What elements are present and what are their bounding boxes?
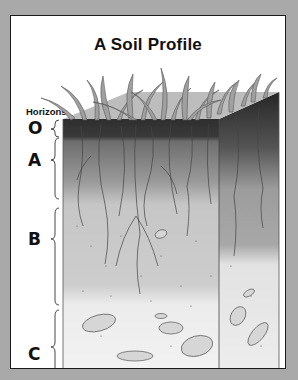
soil-front-face bbox=[63, 119, 219, 369]
soil-side-face bbox=[219, 92, 279, 369]
horizon-braces bbox=[51, 120, 59, 369]
diagram-panel: A Soil Profile Horizons O A B C bbox=[10, 15, 286, 369]
soil-profile-illustration bbox=[11, 16, 286, 369]
